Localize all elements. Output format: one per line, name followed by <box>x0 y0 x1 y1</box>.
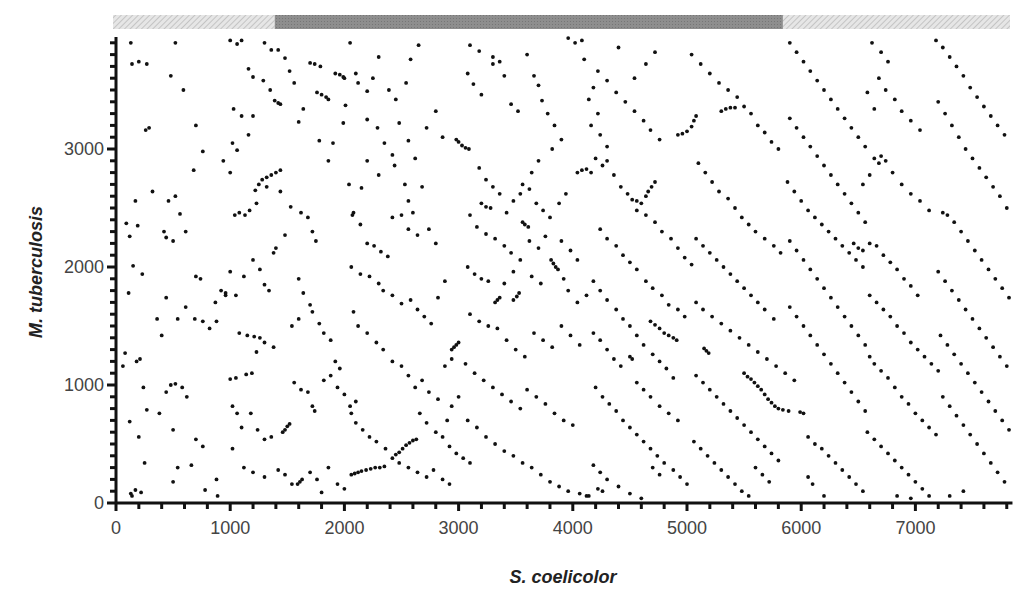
data-point <box>553 411 557 415</box>
data-point <box>950 124 954 128</box>
data-point <box>729 329 733 333</box>
data-point <box>448 445 452 449</box>
data-point <box>297 317 301 321</box>
data-point <box>868 173 872 177</box>
data-point <box>263 283 267 287</box>
data-point <box>354 400 358 404</box>
data-point <box>594 157 598 161</box>
data-point <box>733 482 737 486</box>
data-point <box>939 334 943 338</box>
data-point <box>767 480 771 484</box>
data-point <box>619 185 623 189</box>
data-point <box>422 315 426 319</box>
data-point <box>327 159 331 163</box>
data-point <box>980 390 984 394</box>
data-point <box>726 197 730 201</box>
data-point <box>454 452 458 456</box>
data-point <box>861 183 865 187</box>
data-point <box>387 88 391 92</box>
data-point <box>247 67 251 71</box>
data-point <box>964 147 968 151</box>
data-point <box>592 463 596 467</box>
data-point <box>378 466 382 470</box>
data-point <box>467 147 471 151</box>
data-point <box>420 378 424 382</box>
data-point <box>690 53 694 57</box>
data-point <box>822 286 826 290</box>
data-point <box>598 227 602 231</box>
data-point <box>875 244 879 248</box>
data-point <box>528 187 532 191</box>
data-point <box>121 364 125 368</box>
data-point <box>642 440 646 444</box>
data-point <box>194 124 198 128</box>
data-point <box>726 88 730 92</box>
data-point <box>185 395 189 399</box>
data-point <box>233 213 237 217</box>
data-point <box>729 409 733 413</box>
data-point <box>959 230 963 234</box>
data-point <box>484 435 488 439</box>
data-point <box>274 246 278 250</box>
data-point <box>500 393 504 397</box>
data-point <box>265 185 269 189</box>
data-point <box>847 251 851 255</box>
data-point <box>343 393 347 397</box>
data-point <box>861 489 865 493</box>
data-point <box>201 150 205 154</box>
genome-coverage-bar <box>113 15 1010 29</box>
data-point <box>549 258 553 262</box>
data-point <box>468 213 472 217</box>
data-point <box>685 482 689 486</box>
data-point <box>129 41 133 45</box>
data-point <box>623 100 627 104</box>
data-point <box>719 322 723 326</box>
data-point <box>353 472 357 476</box>
data-point <box>317 322 321 326</box>
data-point <box>843 192 847 196</box>
data-point <box>703 171 707 175</box>
data-point <box>909 284 913 288</box>
data-point <box>788 239 792 243</box>
data-point <box>966 239 970 243</box>
data-point <box>475 426 479 430</box>
data-point <box>909 192 913 196</box>
data-point <box>621 253 625 257</box>
data-point <box>169 383 173 387</box>
data-point <box>283 56 287 60</box>
data-point <box>621 419 625 423</box>
data-point <box>356 470 360 474</box>
dot-plot-chart: 0100020003000400050006000700001000200030… <box>0 0 1034 598</box>
data-point <box>978 327 982 331</box>
data-point <box>381 289 385 293</box>
data-point <box>557 201 561 205</box>
data-point <box>893 98 897 102</box>
data-point <box>391 360 395 364</box>
data-point <box>128 420 132 424</box>
data-point <box>783 371 787 375</box>
data-point <box>457 341 461 345</box>
data-point <box>417 43 421 47</box>
data-point <box>813 216 817 220</box>
data-point <box>605 348 609 352</box>
data-point <box>418 411 422 415</box>
data-point <box>598 289 602 293</box>
data-point <box>290 482 294 486</box>
data-point <box>232 107 236 111</box>
data-point <box>498 192 502 196</box>
data-point <box>576 258 580 262</box>
data-point <box>594 386 598 390</box>
data-point <box>460 144 464 148</box>
data-point <box>596 487 600 491</box>
data-point <box>569 249 573 253</box>
data-point <box>888 315 892 319</box>
data-point <box>231 141 235 145</box>
data-point <box>272 251 276 255</box>
data-point <box>131 264 135 268</box>
data-point <box>854 258 858 262</box>
data-point <box>300 478 304 482</box>
data-point <box>779 251 783 255</box>
data-point <box>655 454 659 458</box>
data-point <box>158 411 162 415</box>
data-point <box>290 324 294 328</box>
